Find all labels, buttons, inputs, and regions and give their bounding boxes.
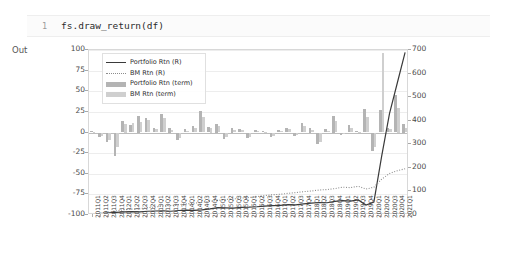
x-axis-tick-mark (123, 214, 124, 217)
left-axis-tick-label: 25 (75, 107, 85, 115)
notebook-output-cell: 1 fs.draw_return(df) Out 1007550250-25-5… (0, 0, 510, 264)
x-axis-tick-mark (287, 214, 288, 217)
x-axis-tick-mark (342, 214, 343, 217)
right-axis-tick-mark (408, 96, 411, 97)
x-axis-tick-mark (232, 214, 233, 217)
x-axis-tick-mark (217, 214, 218, 217)
right-axis-tick-mark (408, 73, 411, 74)
right-axis-tick-label: 100 (412, 186, 426, 194)
x-axis-tick-mark (139, 214, 140, 217)
x-axis-tick-mark (303, 214, 304, 217)
x-axis-tick-mark (108, 214, 109, 217)
right-axis-tick-mark (408, 167, 411, 168)
legend-item-label: Portfolio Rtn (R) (130, 59, 182, 66)
x-axis-tick-mark (271, 214, 272, 217)
x-axis-tick-mark (318, 214, 319, 217)
left-axis-tick-mark (85, 49, 88, 50)
legend-item: Portfolio Rtn (R) (106, 58, 201, 68)
x-axis-tick-mark (279, 214, 280, 217)
legend-item: BM Rtn (R) (106, 68, 201, 78)
x-axis-tick-mark (209, 214, 210, 217)
x-axis-tick-mark (154, 214, 155, 217)
output-prompt-label: Out (12, 45, 27, 55)
left-axis-tick-label: -75 (73, 189, 85, 197)
code-input-cell[interactable]: 1 fs.draw_return(df) (27, 15, 490, 37)
x-axis-tick-mark (326, 214, 327, 217)
right-axis-tick-label: 500 (412, 92, 426, 100)
left-axis-tick-label: 75 (75, 66, 85, 74)
x-axis-tick-mark (334, 214, 335, 217)
x-axis-tick-mark (178, 214, 179, 217)
left-axis-tick-mark (85, 132, 88, 133)
matplotlib-figure: 1007550250-25-50-75-100 7006005004003002… (55, 42, 505, 264)
x-axis-tick-mark (357, 214, 358, 217)
left-axis-tick-label: -100 (68, 210, 85, 218)
x-axis-tick-mark (225, 214, 226, 217)
x-axis-tick-mark (404, 214, 405, 217)
left-axis-tick-mark (85, 111, 88, 112)
bar-patch-icon (106, 92, 126, 97)
x-axis-tick-mark (201, 214, 202, 217)
bar-patch-icon (106, 82, 126, 87)
legend-item: BM Rtn (term) (106, 89, 201, 99)
right-axis-tick-mark (408, 143, 411, 144)
line-solid-icon (106, 59, 126, 67)
x-axis-tick-mark (396, 214, 397, 217)
x-axis-tick-mark (240, 214, 241, 217)
x-axis-tick-mark (248, 214, 249, 217)
x-axis-tick-mark (170, 214, 171, 217)
left-axis-tick-label: -50 (73, 169, 85, 177)
x-axis-tick-mark (100, 214, 101, 217)
x-axis-tick-mark (131, 214, 132, 217)
x-axis-tick-mark (115, 214, 116, 217)
right-axis-tick-label: 700 (412, 45, 426, 53)
x-axis-tick-mark (193, 214, 194, 217)
legend-item-label: Portfolio Rtn (term) (130, 80, 193, 87)
x-axis-tick-mark (373, 214, 374, 217)
left-axis-tick-mark (85, 90, 88, 91)
x-axis-tick-mark (92, 214, 93, 217)
left-axis-tick-mark (85, 173, 88, 174)
right-axis-tick-mark (408, 120, 411, 121)
x-axis-tick-mark (147, 214, 148, 217)
line-dotted-icon (106, 69, 126, 77)
x-axis-tick-mark (365, 214, 366, 217)
x-axis-tick-mark (310, 214, 311, 217)
right-axis-tick-label: 300 (412, 139, 426, 147)
x-axis-tick-mark (186, 214, 187, 217)
left-axis-tick-mark (85, 152, 88, 153)
left-axis-tick-mark (85, 214, 88, 215)
x-axis-tick-mark (295, 214, 296, 217)
legend-item-label: BM Rtn (term) (130, 91, 176, 98)
legend-item: Portfolio Rtn (term) (106, 79, 201, 89)
x-axis-tick-mark (264, 214, 265, 217)
left-axis-tick-label: 50 (75, 86, 85, 94)
left-axis-tick-mark (85, 70, 88, 71)
chart-legend: Portfolio Rtn (R) BM Rtn (R) Portfolio R… (102, 53, 206, 104)
left-axis-tick-mark (85, 193, 88, 194)
right-axis-tick-label: 600 (412, 69, 426, 77)
left-axis-tick-label: -25 (73, 148, 85, 156)
x-axis-tick-mark (388, 214, 389, 217)
code-line-number: 1 (33, 21, 47, 31)
right-axis-tick-mark (408, 190, 411, 191)
x-axis-tick-mark (162, 214, 163, 217)
right-axis-tick-label: 400 (412, 116, 426, 124)
right-axis-tick-label: 200 (412, 163, 426, 171)
x-axis-tick-mark (256, 214, 257, 217)
x-axis-tick-mark (349, 214, 350, 217)
x-axis-tick-label: 2021Q1 (406, 195, 413, 218)
code-source-text[interactable]: fs.draw_return(df) (61, 20, 164, 31)
left-axis-tick-label: 100 (71, 45, 85, 53)
legend-item-label: BM Rtn (R) (130, 70, 165, 77)
x-axis-tick-mark (381, 214, 382, 217)
right-axis-tick-mark (408, 49, 411, 50)
